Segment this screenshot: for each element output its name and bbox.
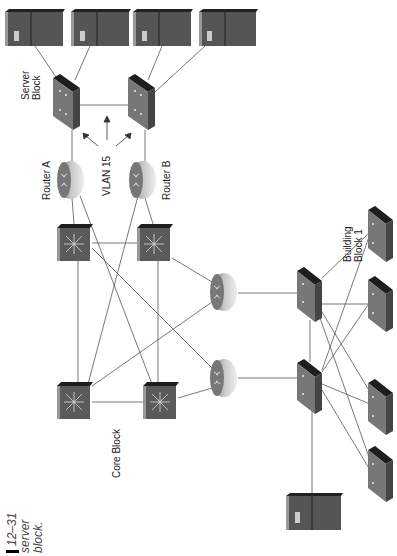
multilayer-switch-icon (57, 224, 93, 261)
access-switches (368, 206, 393, 502)
figure-caption: 12–31 server block. (6, 513, 45, 553)
server-icon (133, 9, 193, 46)
server-block-label: Server Block (20, 71, 42, 100)
layer3-switch-icon (128, 74, 155, 130)
server-block-label-line1: Server (20, 71, 31, 100)
multilayer-switch-icon (137, 224, 173, 261)
router-a-label: Router A (41, 161, 52, 200)
core-block-label: Core Block (111, 429, 122, 478)
building-block-label-line2: Block 1 (353, 226, 364, 262)
layer2-switch-icon (368, 446, 393, 502)
router-b-label: Router B (161, 161, 172, 200)
building-distribution-switches (297, 267, 322, 414)
server-icon (286, 493, 343, 530)
layer3-switch-icon (297, 267, 322, 322)
server-icon (71, 9, 131, 46)
network-diagram (0, 0, 397, 556)
building-block-label-line1: Building (342, 226, 353, 262)
router-icon (57, 161, 84, 199)
vlan-label: VLAN 15 (101, 156, 112, 196)
router-icon (210, 359, 237, 397)
links (35, 46, 370, 493)
multilayer-switch-icon (143, 382, 179, 419)
router-icon (129, 161, 156, 199)
layer2-switch-icon (368, 379, 393, 435)
layer3-switch-icon (297, 359, 322, 414)
layer3-switch-icon (53, 74, 80, 130)
server-icon (5, 9, 65, 46)
server-block-servers (5, 9, 258, 46)
layer2-switch-icon (368, 206, 393, 262)
router-icon (210, 273, 237, 311)
vlan-arrows (83, 116, 131, 146)
server-block-label-line2: Block (31, 71, 42, 100)
caption-line-2: block. (32, 513, 45, 553)
server-icon (199, 9, 258, 46)
building-block-label: Building Block 1 (342, 226, 364, 262)
core-switches (57, 224, 179, 419)
building-routers (210, 273, 237, 397)
layer2-switch-icon (368, 276, 393, 332)
multilayer-switch-icon (57, 382, 93, 419)
